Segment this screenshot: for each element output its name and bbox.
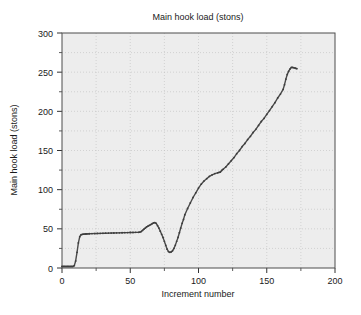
series-point (239, 150, 241, 152)
series-point (162, 237, 164, 239)
series-point (77, 242, 79, 244)
main-hook-load-chart: Main hook load (stons) 050100150200 0501… (0, 0, 361, 315)
series-point (132, 232, 134, 234)
series-point (195, 192, 197, 194)
series-point (124, 232, 126, 234)
series-point (274, 102, 276, 104)
y-axis-label: Main hook load (stons) (9, 104, 19, 195)
series-point (172, 250, 174, 252)
series-point (121, 232, 123, 234)
series-point (166, 248, 168, 250)
series-point (91, 233, 93, 235)
series-point (144, 227, 146, 229)
y-tick-label: 150 (38, 146, 53, 156)
series-point (280, 93, 282, 95)
series-point (157, 225, 159, 227)
series-point (200, 183, 202, 185)
series-point (99, 232, 101, 234)
series-point (241, 146, 243, 148)
series-point (159, 230, 161, 232)
series-point (161, 233, 163, 235)
series-point (277, 97, 279, 99)
series-point (176, 240, 178, 242)
series-point (284, 84, 286, 86)
series-point (177, 237, 179, 239)
y-tick-label: 250 (38, 68, 53, 78)
series-point (282, 89, 284, 91)
series-point (108, 232, 110, 234)
series-point (181, 222, 183, 224)
series-point (155, 222, 157, 224)
series-point (75, 260, 77, 262)
series-point (236, 153, 238, 155)
series-point (158, 227, 160, 229)
series-point (211, 174, 213, 176)
x-axis-label: Increment number (161, 289, 234, 299)
series-point (174, 244, 176, 246)
series-point (206, 178, 208, 180)
series-point (286, 74, 288, 76)
series-point (140, 231, 142, 233)
series-point (228, 163, 230, 165)
series-point (198, 187, 200, 189)
series-point (163, 240, 165, 242)
x-tick-label: 200 (327, 276, 342, 286)
series-point (258, 125, 260, 127)
series-point (102, 232, 104, 234)
series-point (165, 244, 167, 246)
series-point (118, 232, 120, 234)
series-point (222, 168, 224, 170)
series-point (73, 265, 75, 267)
series-point (116, 232, 118, 234)
series-point (269, 110, 271, 112)
series-point (271, 106, 273, 108)
y-tick-label: 0 (48, 264, 53, 274)
series-point (266, 114, 268, 116)
series-point (187, 208, 189, 210)
series-point (97, 233, 99, 235)
x-tick-label: 0 (59, 276, 64, 286)
series-point (129, 232, 131, 234)
series-point (142, 230, 144, 232)
series-point (183, 219, 185, 221)
series-point (214, 173, 216, 175)
series-point (143, 228, 145, 230)
chart-title: Main hook load (stons) (152, 12, 243, 22)
series-point (244, 143, 246, 145)
series-point (184, 214, 186, 216)
x-tick-label: 100 (191, 276, 206, 286)
series-point (252, 132, 254, 134)
series-point (260, 121, 262, 123)
series-point (225, 166, 227, 168)
series-point (110, 232, 112, 234)
x-tick-label: 50 (125, 276, 135, 286)
y-tick-label: 100 (38, 185, 53, 195)
series-point (180, 227, 182, 229)
y-tick-label: 200 (38, 107, 53, 117)
series-point (192, 197, 194, 199)
series-point (94, 233, 96, 235)
series-point (127, 232, 129, 234)
series-point (263, 117, 265, 119)
series-point (249, 136, 251, 138)
series-point (76, 251, 78, 253)
x-tick-label: 150 (259, 276, 274, 286)
series-point (219, 171, 221, 173)
series-point (247, 139, 249, 141)
series-point (209, 175, 211, 177)
series-point (170, 251, 172, 253)
y-tick-label: 300 (38, 29, 53, 39)
series-point (221, 170, 223, 172)
series-point (233, 157, 235, 159)
series-point (285, 78, 287, 80)
series-point (296, 68, 298, 70)
series-point (255, 128, 257, 130)
chart-container: Main hook load (stons) 050100150200 0501… (0, 0, 361, 315)
series-point (113, 232, 115, 234)
series-point (79, 236, 81, 238)
series-point (178, 232, 180, 234)
series-point (230, 160, 232, 162)
series-point (88, 233, 90, 235)
y-tick-label: 50 (43, 224, 53, 234)
series-point (105, 232, 107, 234)
